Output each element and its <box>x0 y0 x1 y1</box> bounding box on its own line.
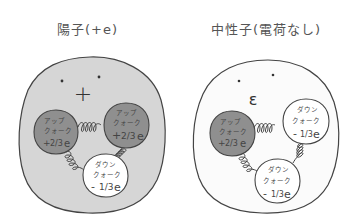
quark-charge-frac: 2/3 <box>50 139 63 148</box>
quark-charge-unit: e <box>114 181 121 194</box>
proton-up-quark-2: アップ クォーク + 2/3 e <box>104 103 149 148</box>
neutron-eye-right <box>272 74 275 77</box>
quark-name-line1: アップ <box>116 109 137 117</box>
quark-charge-sign: - <box>293 127 297 140</box>
quark-charge-unit: e <box>240 138 246 149</box>
quark-name-line1: アップ <box>220 118 241 126</box>
quark-name-line2: クォーク <box>219 128 247 136</box>
neutron-eye-left <box>238 80 241 83</box>
quark-name-line2: クォーク <box>113 119 141 127</box>
quark-name-line1: ダウン <box>297 105 318 114</box>
quark-charge-frac: 1/3 <box>271 190 284 199</box>
proton-diagram: + アップ クォーク + 2/3 e アップ クォーク + 2/3 e ダウン … <box>19 57 165 213</box>
proton-down-quark: ダウン クォーク - 1/3 e <box>83 154 128 197</box>
quark-charge-sign: - <box>263 187 267 200</box>
proton-eye-right <box>98 76 101 79</box>
proton-face-symbol: + <box>74 81 92 106</box>
quark-charge-unit: e <box>313 128 320 141</box>
quark-charge-unit: e <box>284 188 291 201</box>
neutron-up-quark: アップ クォーク + 2/3 e <box>210 111 255 156</box>
proton-eye-left <box>61 80 64 83</box>
neutron-down-quark-2: ダウン クォーク - 1/3 e <box>255 159 300 203</box>
quark-charge-sign: - <box>91 180 95 193</box>
quark-name-line1: ダウン <box>268 165 289 174</box>
quark-charge-frac: 1/3 <box>99 182 113 192</box>
proton-up-quark-1: アップ クォーク + 2/3 e <box>34 110 78 154</box>
quark-charge-frac: 1/3 <box>300 130 313 139</box>
quark-name-line1: アップ <box>44 117 65 125</box>
quark-charge-frac: 2/3 <box>121 131 135 141</box>
quark-name-line2: クォーク <box>263 177 291 185</box>
diagram-canvas: + アップ クォーク + 2/3 e アップ クォーク + 2/3 e ダウン … <box>0 0 354 222</box>
quark-charge-frac: 2/3 <box>225 139 238 148</box>
quark-charge-unit: e <box>137 130 144 143</box>
neutron-down-quark-1: ダウン クォーク - 1/3 e <box>283 99 329 144</box>
quark-name-line1: ダウン <box>95 160 116 169</box>
neutron-face-symbol: ε <box>249 90 258 109</box>
neutron-diagram: ε アップ クォーク + 2/3 e ダウン クォーク - 1/3 e ダウン … <box>193 60 338 213</box>
quark-charge-unit: e <box>64 138 70 149</box>
quark-name-line2: クォーク <box>44 127 72 135</box>
quark-charge-sign: + <box>112 129 121 142</box>
quark-name-line2: クォーク <box>292 117 320 125</box>
quark-name-line2: クォーク <box>93 171 121 179</box>
